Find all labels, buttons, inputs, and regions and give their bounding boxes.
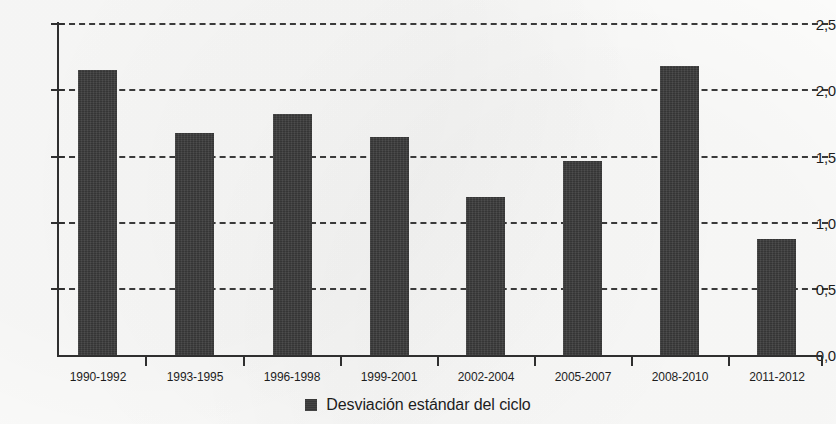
bar-1993-1995 [175, 133, 214, 355]
bar-2008-2010 [660, 66, 699, 355]
x-cat-label-1990-1992: 1990-1992 [70, 370, 127, 384]
x-tick-mark-4 [437, 356, 439, 366]
bar-2002-2004 [466, 197, 505, 355]
bar-2005-2007 [563, 161, 602, 355]
y-tick-mark-2-0 [51, 89, 64, 91]
gridline-2-0 [59, 89, 828, 91]
x-cat-label-1996-1998: 1996-1998 [264, 370, 321, 384]
bar-1990-1992 [78, 70, 117, 355]
bar-2011-2012 [757, 239, 796, 355]
x-cat-label-1993-1995: 1993-1995 [167, 370, 224, 384]
y-axis-line [57, 22, 59, 357]
legend-square-marker-icon [305, 399, 317, 411]
y-tick-mark-1-5 [51, 156, 64, 158]
x-tick-mark-2 [243, 356, 245, 366]
y-tick-mark-0-5 [51, 288, 64, 290]
x-tick-mark-6 [631, 356, 633, 366]
x-cat-label-2002-2004: 2002-2004 [458, 370, 515, 384]
x-cat-label-2008-2010: 2008-2010 [652, 370, 709, 384]
x-cat-label-2005-2007: 2005-2007 [555, 370, 612, 384]
y-tick-label-1-5: 1,5 [788, 149, 836, 166]
y-tick-label-2-5: 2,5 [788, 16, 836, 33]
x-axis-line [57, 355, 822, 357]
legend-label-desviacion-estandar-del-ciclo: Desviación estándar del ciclo [326, 396, 530, 414]
x-tick-mark-8 [821, 356, 823, 366]
y-tick-mark-1-0 [51, 222, 64, 224]
x-tick-mark-1 [145, 356, 147, 366]
gridline-2-5 [59, 23, 828, 25]
x-cat-label-2011-2012: 2011-2012 [749, 370, 805, 384]
y-tick-mark-2-5 [51, 23, 64, 25]
chart-page: 2,5 2,0 1,5 1,0 0,5 0,0 [0, 0, 836, 424]
bar-1999-2001 [370, 137, 409, 355]
y-tick-label-2-0: 2,0 [788, 82, 836, 99]
x-tick-mark-7 [728, 356, 730, 366]
x-tick-mark-5 [534, 356, 536, 366]
y-tick-label-1-0: 1,0 [788, 215, 836, 232]
bar-1996-1998 [273, 114, 312, 355]
bar-chart: 2,5 2,0 1,5 1,0 0,5 0,0 [0, 0, 836, 424]
chart-legend: Desviación estándar del ciclo [0, 396, 836, 414]
x-tick-mark-3 [340, 356, 342, 366]
x-cat-label-1999-2001: 1999-2001 [361, 370, 418, 384]
